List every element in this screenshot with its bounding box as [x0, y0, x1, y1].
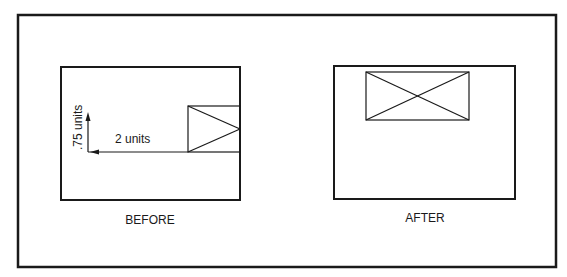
- before-placeholder-shape: [188, 106, 240, 152]
- after-caption: AFTER: [405, 211, 445, 225]
- after-placeholder-shape: [366, 72, 469, 120]
- before-after-diagram: 2 units .75 units BEFORE AFTER: [0, 0, 567, 277]
- horizontal-dimension-arrow: [88, 150, 188, 155]
- vertical-dimension-label: .75 units: [71, 105, 85, 150]
- before-panel: 2 units .75 units BEFORE: [61, 67, 240, 227]
- after-screen-box: [334, 66, 515, 199]
- vertical-dimension-arrow: [86, 112, 91, 152]
- before-caption: BEFORE: [125, 213, 174, 227]
- after-panel: AFTER: [334, 66, 515, 225]
- horizontal-dimension-label: 2 units: [115, 132, 150, 146]
- outer-frame: [18, 15, 556, 267]
